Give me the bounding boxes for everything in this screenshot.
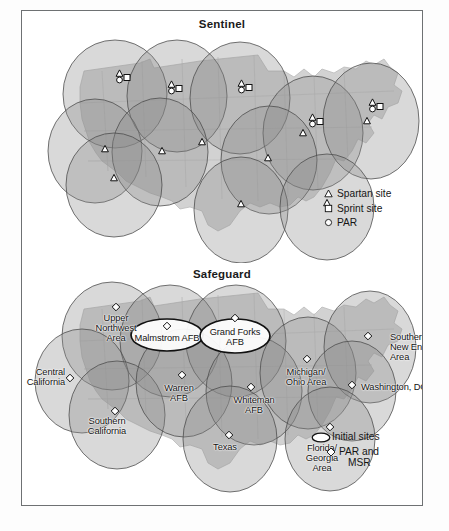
site-label-line: AFB: [170, 393, 188, 403]
site-label-line: Washington, DC: [361, 382, 422, 392]
site-label: Michigan/Ohio Area: [263, 367, 349, 387]
site-label-line: AFB: [245, 405, 263, 415]
legend-label-sprint-site: Sprint site: [337, 203, 382, 215]
legend-item-spartan-site: Spartan site: [320, 188, 422, 200]
coverage-ellipse: [66, 133, 162, 237]
site-label: Washington, DC: [361, 382, 422, 392]
triangle-icon: [320, 188, 337, 198]
site-label-line: Southern: [89, 416, 126, 426]
site-label: SouthernCalifornia: [64, 416, 150, 436]
circle-marker: [239, 87, 245, 93]
site-label-line: Northwest: [96, 323, 137, 333]
legend-label-par: PAR: [337, 217, 357, 229]
circle-marker: [117, 77, 123, 83]
site-label: Grand ForksAFB: [192, 327, 278, 347]
site-label-line: AFB: [226, 337, 244, 347]
site-label-line: Area: [390, 352, 409, 362]
site-label-line: Grand Forks: [210, 327, 261, 337]
circle-marker: [310, 121, 316, 127]
site-label-line: Ohio Area: [286, 377, 326, 387]
site-label-line: Area: [106, 333, 125, 343]
legend-label-par-and-msr-line2: MSR: [339, 457, 371, 468]
square-marker: [246, 85, 252, 91]
legend-item-sprint-site: Sprint site: [320, 203, 422, 215]
site-label-line: California: [88, 426, 126, 436]
legend-item-par-and-msr: PAR and MSR: [322, 446, 422, 469]
site-label-line: Malmstrom AFB: [135, 333, 200, 343]
legend-label-par-and-msr: PAR and MSR: [339, 446, 379, 469]
circle-marker: [370, 106, 376, 112]
panel-safeguard: Safeguard: [22, 263, 422, 507]
site-label-line: Warren: [164, 383, 194, 393]
site-label: WhitemanAFB: [211, 395, 297, 415]
site-label: WarrenAFB: [136, 383, 222, 403]
square-marker: [377, 104, 383, 110]
site-label-line: Central: [36, 367, 65, 377]
site-label-line: Michigan/: [287, 367, 326, 377]
figure-root: Sentinel: [0, 0, 449, 531]
legend-item-par: PAR: [320, 217, 422, 229]
figure-frame: Sentinel: [21, 10, 423, 506]
site-label-line: Texas: [213, 442, 237, 452]
site-label-line: Whiteman: [233, 395, 274, 405]
square-icon: [320, 203, 337, 213]
site-label-line: Southern: [390, 332, 422, 342]
site-label-line: New England: [390, 342, 422, 352]
coverage-ellipse: [194, 157, 288, 263]
legend-label-par-and-msr-line1: PAR and: [339, 446, 379, 457]
panel-sentinel: Sentinel: [22, 11, 422, 263]
diamond-icon: [322, 446, 339, 457]
legend-sentinel: Spartan site Sprint site PAR: [320, 188, 422, 232]
circle-icon: [320, 217, 337, 227]
ellipse-outline-icon: [310, 431, 332, 443]
legend-safeguard: Initial sites PAR and MSR: [310, 431, 422, 472]
site-label-line: Upper: [104, 313, 129, 323]
site-label: SouthernNew EnglandArea: [390, 332, 422, 362]
site-label: CentralCalifornia: [22, 367, 65, 387]
legend-label-spartan-site: Spartan site: [337, 188, 391, 200]
square-marker: [317, 119, 323, 125]
circle-marker: [169, 88, 175, 94]
square-marker: [176, 86, 182, 92]
site-label: Texas: [182, 442, 268, 452]
legend-label-initial-sites: Initial sites: [332, 431, 380, 443]
square-marker: [124, 75, 130, 81]
legend-item-initial-sites: Initial sites: [310, 431, 422, 443]
site-label-line: California: [27, 377, 65, 387]
